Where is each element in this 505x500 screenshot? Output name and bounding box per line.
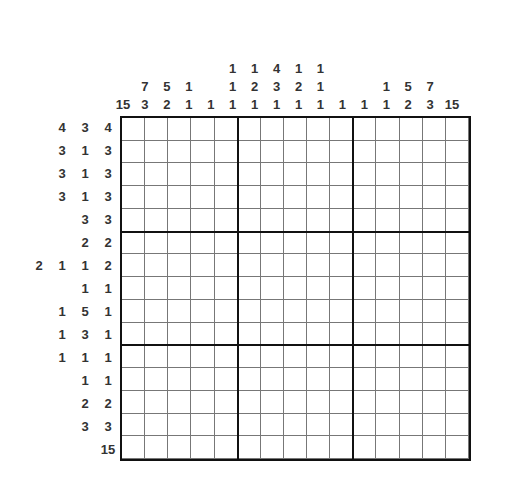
grid-cell[interactable]	[330, 141, 353, 164]
grid-cell[interactable]	[261, 323, 284, 346]
grid-cell[interactable]	[376, 277, 399, 300]
grid-cell[interactable]	[145, 345, 168, 368]
grid-cell[interactable]	[376, 186, 399, 209]
grid-cell[interactable]	[400, 186, 423, 209]
grid-cell[interactable]	[191, 436, 214, 459]
grid-cell[interactable]	[191, 118, 214, 141]
grid-cell[interactable]	[145, 323, 168, 346]
grid-cell[interactable]	[353, 391, 376, 414]
grid-cell[interactable]	[423, 368, 446, 391]
grid-cell[interactable]	[238, 323, 261, 346]
grid-cell[interactable]	[376, 391, 399, 414]
grid-cell[interactable]	[145, 254, 168, 277]
grid-cell[interactable]	[284, 141, 307, 164]
grid-cell[interactable]	[238, 277, 261, 300]
grid-cell[interactable]	[145, 232, 168, 255]
grid-cell[interactable]	[330, 163, 353, 186]
grid-cell[interactable]	[330, 436, 353, 459]
grid-cell[interactable]	[400, 368, 423, 391]
grid-cell[interactable]	[353, 300, 376, 323]
grid-cell[interactable]	[238, 118, 261, 141]
grid-cell[interactable]	[330, 300, 353, 323]
grid-cell[interactable]	[446, 141, 469, 164]
grid-cell[interactable]	[400, 141, 423, 164]
grid-cell[interactable]	[215, 186, 238, 209]
grid-cell[interactable]	[307, 254, 330, 277]
grid-cell[interactable]	[284, 414, 307, 437]
grid-cell[interactable]	[376, 436, 399, 459]
grid-cell[interactable]	[215, 209, 238, 232]
grid-cell[interactable]	[284, 345, 307, 368]
grid-cell[interactable]	[353, 141, 376, 164]
grid-cell[interactable]	[400, 209, 423, 232]
grid-cell[interactable]	[353, 118, 376, 141]
grid-cell[interactable]	[261, 391, 284, 414]
grid-cell[interactable]	[215, 323, 238, 346]
grid-cell[interactable]	[145, 186, 168, 209]
grid-cell[interactable]	[423, 300, 446, 323]
grid-cell[interactable]	[353, 323, 376, 346]
grid-cell[interactable]	[191, 254, 214, 277]
grid-cell[interactable]	[261, 163, 284, 186]
grid-cell[interactable]	[330, 391, 353, 414]
grid-cell[interactable]	[376, 368, 399, 391]
grid-cell[interactable]	[353, 345, 376, 368]
grid-cell[interactable]	[307, 163, 330, 186]
grid-cell[interactable]	[446, 277, 469, 300]
grid-cell[interactable]	[145, 163, 168, 186]
grid-cell[interactable]	[215, 163, 238, 186]
grid-cell[interactable]	[238, 186, 261, 209]
grid-cell[interactable]	[122, 118, 145, 141]
grid-cell[interactable]	[145, 414, 168, 437]
grid-cell[interactable]	[446, 391, 469, 414]
grid-cell[interactable]	[168, 141, 191, 164]
grid-cell[interactable]	[284, 277, 307, 300]
grid-cell[interactable]	[330, 414, 353, 437]
grid-cell[interactable]	[307, 368, 330, 391]
grid-cell[interactable]	[168, 186, 191, 209]
grid-cell[interactable]	[330, 118, 353, 141]
grid-cell[interactable]	[307, 436, 330, 459]
grid-cell[interactable]	[423, 436, 446, 459]
grid-cell[interactable]	[191, 277, 214, 300]
grid-cell[interactable]	[307, 414, 330, 437]
grid-cell[interactable]	[191, 414, 214, 437]
grid-cell[interactable]	[191, 323, 214, 346]
grid-cell[interactable]	[400, 414, 423, 437]
grid-cell[interactable]	[353, 368, 376, 391]
grid-cell[interactable]	[330, 345, 353, 368]
grid-cell[interactable]	[168, 277, 191, 300]
grid-cell[interactable]	[168, 414, 191, 437]
grid-cell[interactable]	[122, 209, 145, 232]
grid-cell[interactable]	[191, 391, 214, 414]
grid-cell[interactable]	[307, 345, 330, 368]
grid-cell[interactable]	[191, 186, 214, 209]
grid-cell[interactable]	[122, 414, 145, 437]
grid-cell[interactable]	[191, 300, 214, 323]
grid-cell[interactable]	[284, 391, 307, 414]
grid-cell[interactable]	[307, 300, 330, 323]
grid-cell[interactable]	[423, 118, 446, 141]
grid-cell[interactable]	[238, 368, 261, 391]
grid-cell[interactable]	[145, 300, 168, 323]
grid-cell[interactable]	[168, 436, 191, 459]
grid-cell[interactable]	[284, 254, 307, 277]
grid-cell[interactable]	[353, 232, 376, 255]
grid-cell[interactable]	[261, 414, 284, 437]
grid-cell[interactable]	[284, 368, 307, 391]
grid-cell[interactable]	[284, 186, 307, 209]
grid-cell[interactable]	[446, 436, 469, 459]
grid-cell[interactable]	[284, 323, 307, 346]
grid-cell[interactable]	[215, 232, 238, 255]
grid-cell[interactable]	[446, 368, 469, 391]
grid-cell[interactable]	[284, 118, 307, 141]
grid-cell[interactable]	[122, 391, 145, 414]
grid-cell[interactable]	[122, 163, 145, 186]
grid-cell[interactable]	[400, 300, 423, 323]
grid-cell[interactable]	[215, 300, 238, 323]
grid-cell[interactable]	[122, 254, 145, 277]
grid-cell[interactable]	[376, 300, 399, 323]
grid-cell[interactable]	[423, 232, 446, 255]
grid-cell[interactable]	[215, 436, 238, 459]
grid-cell[interactable]	[446, 163, 469, 186]
